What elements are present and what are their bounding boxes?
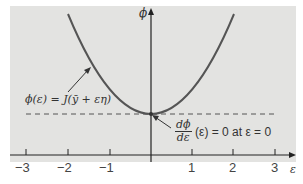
plot-svg [0,0,303,184]
x-axis-label: ε [290,163,296,176]
deriv-condition: (ε) = 0 at ε = 0 [195,125,271,139]
tick-label-neg2: −2 [57,160,72,175]
tick-label-1: 1 [188,160,195,175]
func-label-arrow [68,70,88,92]
y-axis-label: ϕ [139,6,147,20]
tick-label-neg1: −1 [99,160,114,175]
deriv-denominator: dε [175,132,192,144]
tick-label-neg3: −3 [15,160,30,175]
tick-label-3: 3 [271,160,278,175]
x-axis-arrow-icon [289,152,296,158]
tick-label-2: 2 [229,160,236,175]
deriv-arrow-head-icon [152,115,159,121]
function-label: ϕ(ε) = J(ȳ + εη) [25,93,111,106]
derivative-fraction: dϕ dε [175,119,192,144]
y-axis-arrow-icon [148,8,154,15]
derivative-label: dϕ dε (ε) = 0 at ε = 0 [175,119,271,144]
